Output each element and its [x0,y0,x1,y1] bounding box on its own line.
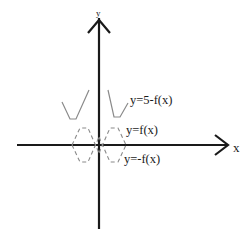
y-axis [88,18,110,229]
curve-5-minus-f [62,90,128,119]
label-5-minus-f: y=5-f(x) [130,93,172,107]
label-f: y=f(x) [126,123,158,137]
function-graph-diagram: y x y=5-f(x) y=f(x) y=-f(x) [0,0,242,230]
x-axis [17,135,228,155]
label-neg-f: y=-f(x) [124,152,160,166]
y-axis-label: y [96,8,101,18]
x-axis-label: x [233,140,240,155]
